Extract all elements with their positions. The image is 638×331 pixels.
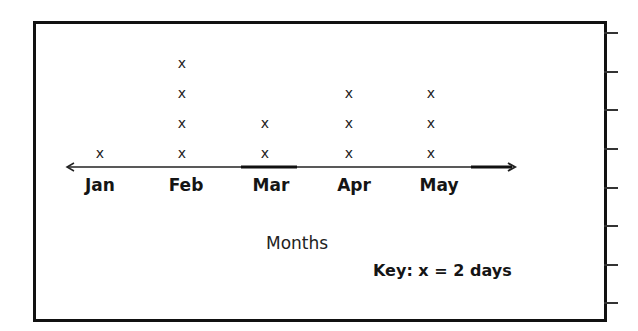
x-mark: x	[257, 146, 273, 160]
x-mark: x	[423, 116, 439, 130]
x-mark: x	[174, 146, 190, 160]
x-mark: x	[174, 86, 190, 100]
x-mark: x	[341, 146, 357, 160]
month-label-jan: Jan	[70, 176, 130, 194]
x-axis-label: Months	[266, 233, 328, 253]
x-mark: x	[423, 146, 439, 160]
x-mark: x	[341, 116, 357, 130]
x-mark: x	[423, 86, 439, 100]
x-mark: x	[174, 116, 190, 130]
x-mark: x	[341, 86, 357, 100]
x-mark: x	[174, 56, 190, 70]
legend-key: Key: x = 2 days	[373, 261, 512, 280]
month-label-apr: Apr	[324, 176, 384, 194]
number-line	[0, 0, 638, 331]
x-mark: x	[257, 116, 273, 130]
x-mark: x	[92, 146, 108, 160]
month-label-feb: Feb	[156, 176, 216, 194]
month-label-may: May	[409, 176, 469, 194]
month-label-mar: Mar	[241, 176, 301, 194]
